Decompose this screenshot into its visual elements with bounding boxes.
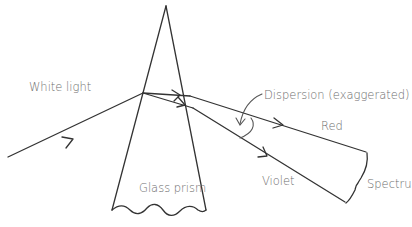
spectrum-label: Spectru bbox=[367, 179, 412, 191]
prism-left-edge bbox=[112, 6, 166, 210]
prism-right-edge bbox=[166, 6, 206, 210]
angle-arc bbox=[240, 118, 253, 138]
prism-wavy-base bbox=[112, 204, 206, 215]
internal-rays bbox=[143, 90, 193, 108]
arrowhead-icon bbox=[62, 137, 73, 148]
dispersion-angle bbox=[236, 94, 262, 138]
violet-label: Violet bbox=[262, 176, 295, 188]
red-label: Red bbox=[321, 121, 343, 133]
incident-ray bbox=[8, 93, 143, 157]
dispersion-label: Dispersion (exaggerated) bbox=[264, 90, 410, 102]
spectrum-bracket bbox=[346, 153, 367, 203]
pointer-curve bbox=[240, 94, 262, 124]
white-light-label: White light bbox=[29, 82, 91, 94]
glass-prism-label: Glass prism bbox=[139, 183, 206, 195]
